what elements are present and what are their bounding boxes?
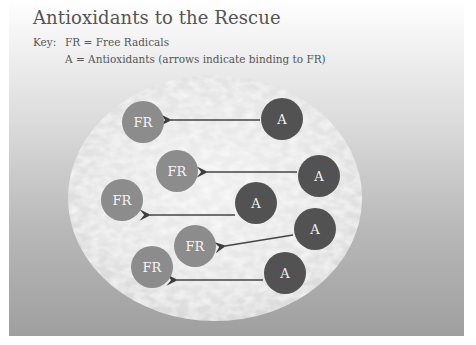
- free-radical-3: FR: [101, 179, 143, 221]
- free-radical-4: FR: [174, 225, 216, 267]
- svg-text:A: A: [309, 222, 320, 237]
- svg-text:A: A: [313, 169, 324, 184]
- svg-text:A: A: [250, 196, 261, 211]
- antioxidant-5: A: [264, 252, 306, 294]
- free-radical-2: FR: [156, 150, 198, 192]
- binding-diagram: FR FR FR FR FR A A A: [0, 0, 476, 345]
- svg-text:FR: FR: [113, 193, 133, 208]
- antioxidant-2: A: [298, 155, 340, 197]
- svg-text:A: A: [279, 266, 290, 281]
- antioxidant-3: A: [235, 182, 277, 224]
- svg-text:FR: FR: [186, 239, 206, 254]
- svg-text:FR: FR: [143, 260, 163, 275]
- free-radical-1: FR: [122, 101, 164, 143]
- antioxidant-1: A: [261, 98, 303, 140]
- svg-text:FR: FR: [168, 164, 188, 179]
- svg-text:FR: FR: [134, 115, 154, 130]
- antioxidant-4: A: [294, 208, 336, 250]
- free-radical-5: FR: [131, 246, 173, 288]
- svg-text:A: A: [276, 112, 287, 127]
